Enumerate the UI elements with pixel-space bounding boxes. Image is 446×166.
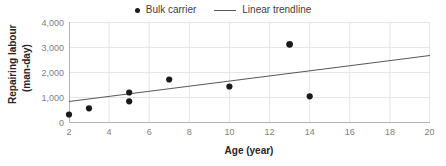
- data-point: [86, 105, 92, 111]
- y-axis-title-line2: (man-day): [21, 44, 32, 92]
- x-tick-label-12: 12: [265, 127, 275, 137]
- chart-plot: 4,000 3,000 2,000 1,000 0 2 4 6 8 10 12 …: [0, 0, 446, 166]
- x-tick-label-14: 14: [305, 127, 315, 137]
- x-tick-label-18: 18: [385, 127, 395, 137]
- y-tick-label-1000: 1,000: [41, 93, 64, 103]
- y-tick-label-3000: 3,000: [41, 43, 64, 53]
- y-tick-label-4000: 4,000: [41, 18, 64, 28]
- data-point: [166, 76, 172, 82]
- x-axis-title: Age (year): [225, 145, 274, 156]
- x-tick-label-16: 16: [345, 127, 355, 137]
- x-tick-label-6: 6: [147, 127, 152, 137]
- linear-trendline: [69, 56, 430, 102]
- data-point: [226, 83, 232, 89]
- chart-container: Bulk carrier Linear trendline: [0, 0, 446, 166]
- x-tick-label-8: 8: [187, 127, 192, 137]
- x-tick-label-2: 2: [66, 127, 71, 137]
- data-point: [66, 111, 72, 117]
- x-axis-tick-labels: 2 4 6 8 10 12 14 16 18 20: [66, 127, 434, 137]
- data-point: [126, 89, 132, 95]
- y-axis-title: Repairing labour (man-day): [7, 24, 32, 104]
- y-tick-label-2000: 2,000: [41, 68, 64, 78]
- x-tick-label-4: 4: [107, 127, 112, 137]
- grid-lines: [69, 23, 430, 123]
- y-axis-tick-labels: 4,000 3,000 2,000 1,000 0: [41, 18, 64, 128]
- data-point: [307, 93, 313, 99]
- x-tick-label-10: 10: [224, 127, 234, 137]
- data-point: [126, 98, 132, 104]
- y-tick-label-0: 0: [59, 118, 64, 128]
- data-point: [286, 41, 293, 48]
- x-tick-label-20: 20: [424, 127, 434, 137]
- y-axis-title-line1: Repairing labour: [7, 24, 18, 104]
